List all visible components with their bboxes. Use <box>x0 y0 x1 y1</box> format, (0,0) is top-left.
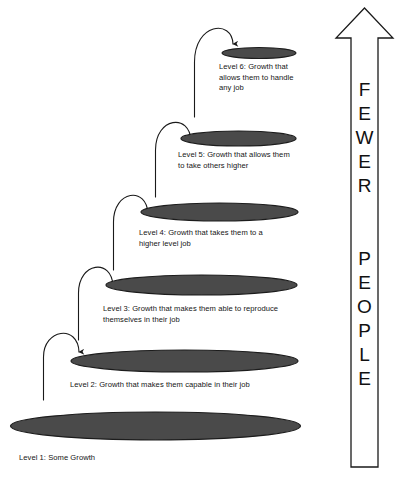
label-level-2: Level 2: Growth that makes them capable … <box>70 380 300 391</box>
label-level-5: Level 5: Growth that allows them to take… <box>178 150 318 171</box>
arrow-letter-e1: E <box>358 103 371 124</box>
ellipse-level-5 <box>181 131 296 146</box>
arrow-letter-p1: P <box>358 248 371 269</box>
diagram-canvas: F E W E R P E O P L E Level 6: Growth th… <box>0 0 399 487</box>
ellipse-level-2 <box>71 350 298 372</box>
arrow-letter-p2: P <box>358 320 371 341</box>
arrow-letter-f: F <box>359 79 371 100</box>
arrow-letter-e2: E <box>358 151 371 172</box>
fewer-people-arrow-outline <box>336 8 393 467</box>
label-level-6: Level 6: Growth that allows them to hand… <box>219 62 319 94</box>
arrow-letter-o: O <box>357 296 372 317</box>
fewer-people-arrow: F E W E R P E O P L E <box>336 8 393 467</box>
ellipse-level-3 <box>106 275 297 295</box>
label-level-4: Level 4: Growth that takes them to a hig… <box>139 228 299 249</box>
ellipse-level-1 <box>11 412 301 440</box>
label-level-1: Level 1: Some Growth <box>19 453 179 464</box>
arrow-letter-e4: E <box>358 368 371 389</box>
arrow-letter-e3: E <box>358 272 371 293</box>
arrow-letter-w: W <box>356 127 374 148</box>
ellipse-level-6 <box>222 48 296 59</box>
ellipse-level-4 <box>141 203 298 221</box>
label-level-3: Level 3: Growth that makes them able to … <box>103 304 308 325</box>
arrow-letter-r: R <box>358 175 372 196</box>
arrow-letter-l: L <box>359 344 370 365</box>
